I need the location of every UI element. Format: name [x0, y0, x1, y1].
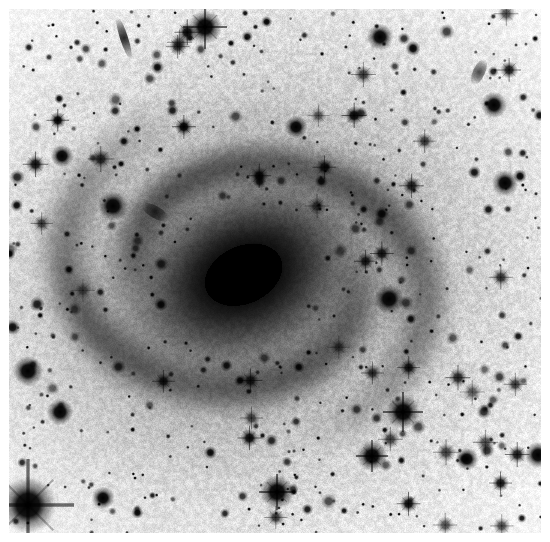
- galaxy-plate-canvas: [0, 0, 550, 542]
- plate-image-stage: [0, 0, 550, 542]
- plate-frame: [0, 0, 550, 542]
